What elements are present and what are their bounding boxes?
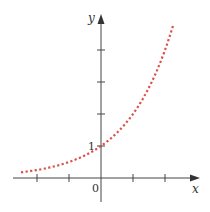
y-axis-arrow-icon: [98, 14, 105, 24]
x-axis-label: x: [192, 182, 199, 196]
x-axis-arrow-icon: [190, 175, 200, 182]
exponential-chart: y x 0 1: [0, 0, 210, 212]
exponential-curve: [21, 26, 173, 173]
origin-label: 0: [92, 182, 99, 195]
y-axis-label: y: [87, 11, 95, 25]
y-intercept-label: 1: [88, 140, 95, 153]
